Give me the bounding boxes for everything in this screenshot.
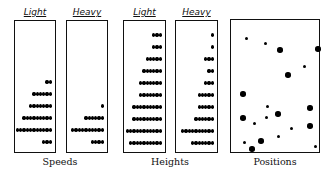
particle-dot — [211, 69, 214, 73]
speeds-heavy-panel — [66, 20, 108, 153]
particle-dot — [101, 128, 104, 132]
heavy-particle — [285, 72, 291, 78]
particle-dot — [159, 57, 162, 61]
particle-dot — [101, 104, 104, 108]
histogram-row — [207, 69, 214, 73]
histogram-row — [84, 116, 104, 120]
light-particle — [266, 105, 269, 108]
particle-dot — [159, 105, 162, 109]
light-particle — [243, 141, 246, 144]
histogram-row — [16, 128, 52, 132]
heavy-particle — [307, 123, 313, 129]
light-particle — [253, 122, 256, 125]
histogram-row — [198, 93, 214, 97]
particle-dot — [101, 140, 104, 144]
light-particle — [277, 135, 280, 138]
particle-dot — [49, 104, 52, 108]
histogram-row — [132, 105, 162, 109]
heavy-particle — [258, 138, 264, 144]
histogram-row — [91, 140, 104, 144]
light-particle — [314, 145, 317, 148]
particle-dot — [49, 92, 52, 96]
speeds-light-title: Light — [14, 7, 56, 17]
speeds-heavy-title: Heavy — [66, 7, 108, 17]
histogram-row — [146, 57, 162, 61]
histogram-row — [45, 80, 52, 84]
particle-dot — [101, 116, 104, 120]
histogram-row — [194, 117, 214, 121]
speeds-light-panel — [14, 20, 56, 153]
histogram-row — [126, 129, 162, 133]
histogram-row — [132, 117, 162, 121]
heavy-particle — [240, 91, 246, 97]
heights-label: Heights — [140, 156, 200, 167]
particle-dot — [159, 33, 162, 37]
histogram-row — [71, 128, 104, 132]
heights-heavy-title: Heavy — [175, 7, 218, 17]
light-particle — [245, 37, 248, 40]
particle-dot — [49, 116, 52, 120]
light-particle — [264, 42, 267, 45]
particle-dot — [159, 81, 162, 85]
positions-label: Positions — [245, 156, 305, 167]
particle-dot — [159, 129, 162, 133]
particle-dot — [211, 33, 214, 37]
particle-dot — [159, 45, 162, 49]
speeds-label: Speeds — [30, 156, 90, 167]
particle-dot — [211, 129, 214, 133]
particle-dot — [159, 69, 162, 73]
particle-dot — [211, 57, 214, 61]
histogram-row — [22, 116, 52, 120]
heights-light-title: Light — [123, 7, 166, 17]
histogram-row — [204, 57, 214, 61]
histogram-row — [139, 81, 162, 85]
histogram-row — [139, 93, 162, 97]
heavy-particle — [315, 46, 321, 52]
particle-dot — [211, 81, 214, 85]
particle-dot — [49, 128, 52, 132]
heavy-particle — [277, 47, 283, 53]
positions-panel — [230, 19, 320, 153]
particle-dot — [49, 140, 52, 144]
histogram-row — [152, 45, 162, 49]
histogram-row — [204, 81, 214, 85]
heavy-particle — [249, 146, 255, 152]
histogram-row — [142, 69, 162, 73]
particle-dot — [159, 117, 162, 121]
heavy-particle — [307, 105, 313, 111]
histogram-row — [101, 104, 104, 108]
histogram-row — [152, 33, 162, 37]
heights-heavy-panel — [175, 20, 218, 153]
histogram-row — [211, 33, 214, 37]
histogram-row — [32, 92, 52, 96]
histogram-row — [181, 129, 214, 133]
heavy-particle — [275, 111, 281, 117]
histogram-row — [198, 105, 214, 109]
particle-dot — [159, 141, 162, 145]
heavy-particle — [240, 115, 246, 121]
particle-dot — [211, 93, 214, 97]
histogram-row — [29, 104, 52, 108]
histogram-row — [211, 45, 214, 49]
particle-dot — [159, 93, 162, 97]
particle-dot — [211, 117, 214, 121]
light-particle — [303, 65, 306, 68]
light-particle — [265, 116, 268, 119]
particle-dot — [211, 141, 214, 145]
particle-dot — [211, 45, 214, 49]
histogram-row — [42, 140, 52, 144]
histogram-row — [129, 141, 162, 145]
heights-light-panel — [123, 20, 166, 153]
particle-dot — [49, 80, 52, 84]
particle-dot — [211, 105, 214, 109]
light-particle — [290, 127, 293, 130]
histogram-row — [191, 141, 214, 145]
